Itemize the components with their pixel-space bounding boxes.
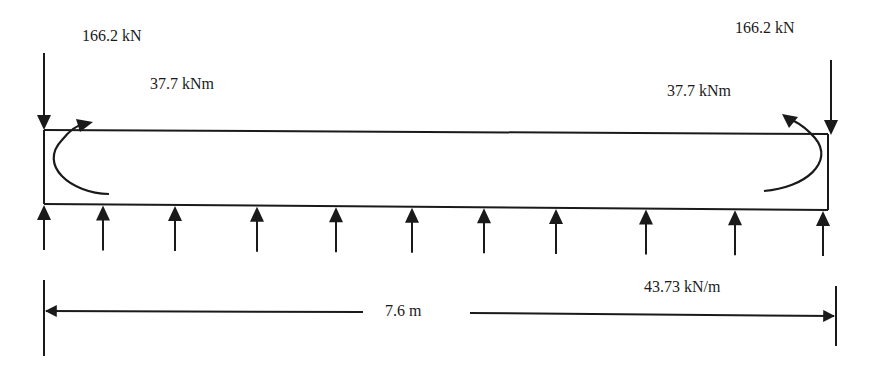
curved-arrow-icon: [764, 121, 821, 191]
curved-arrow-icon: [54, 124, 109, 194]
up-arrow-icon: [96, 205, 110, 250]
distributed-load: [37, 205, 830, 256]
arrowhead-icon: [824, 120, 838, 135]
point-load-right: [824, 60, 838, 135]
beam-top-edge: [44, 130, 828, 134]
up-arrow-icon: [639, 210, 653, 255]
beam-diagram: [0, 0, 875, 377]
moment-right-label: 37.7 kNm: [667, 83, 731, 99]
moment-right: [764, 114, 821, 191]
up-arrow-icon: [37, 205, 51, 250]
up-arrow-icon: [477, 208, 491, 253]
up-arrow-icon: [549, 209, 563, 254]
dimension-arrow-right: [470, 313, 834, 316]
up-arrow-icon: [168, 206, 182, 251]
dimension-arrow-left: [46, 311, 363, 312]
point-load-left-label: 166.2 kN: [82, 28, 142, 44]
up-arrow-icon: [816, 211, 830, 256]
up-arrow-icon: [250, 207, 264, 252]
up-arrow-icon: [728, 210, 742, 255]
span-length-label: 7.6 m: [385, 303, 421, 319]
arrowhead-icon: [37, 115, 51, 130]
up-arrow-icon: [405, 208, 419, 253]
moment-left-label: 37.7 kNm: [150, 76, 214, 92]
point-load-right-label: 166.2 kN: [735, 20, 795, 36]
beam: [44, 130, 828, 210]
up-arrow-icon: [329, 207, 343, 252]
beam-bottom-edge: [44, 204, 828, 210]
distributed-load-label: 43.73 kN/m: [644, 279, 720, 295]
point-load-left: [37, 53, 51, 130]
